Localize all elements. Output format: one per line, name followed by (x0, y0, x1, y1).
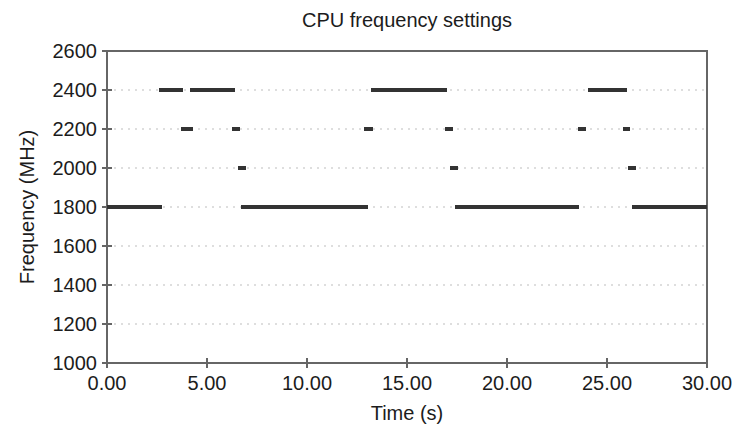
y-tick-label: 1400 (53, 274, 98, 296)
y-tick-label: 1000 (53, 352, 98, 374)
y-tick-label: 2400 (53, 79, 98, 101)
x-tick-label: 15.00 (382, 372, 432, 394)
x-tick-label: 30.00 (682, 372, 732, 394)
x-tick-label: 25.00 (582, 372, 632, 394)
x-tick-label: 10.00 (282, 372, 332, 394)
plot-border (107, 51, 707, 363)
y-tick-label: 1800 (53, 196, 98, 218)
plot-area: 0.005.0010.0015.0020.0025.0030.001000120… (0, 0, 748, 446)
x-tick-label: 0.00 (88, 372, 127, 394)
y-tick-label: 2600 (53, 40, 98, 62)
y-tick-label: 2000 (53, 157, 98, 179)
x-tick-label: 20.00 (482, 372, 532, 394)
y-tick-label: 2200 (53, 118, 98, 140)
y-tick-label: 1600 (53, 235, 98, 257)
x-tick-label: 5.00 (188, 372, 227, 394)
cpu-frequency-chart: CPU frequency settings Frequency (MHz) T… (0, 0, 748, 446)
y-tick-label: 1200 (53, 313, 98, 335)
